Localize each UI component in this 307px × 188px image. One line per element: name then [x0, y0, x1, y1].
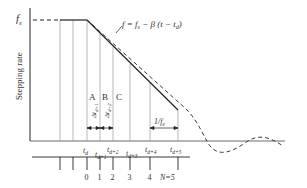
ideal-ramp-curve [87, 20, 283, 152]
svg-text:0: 0 [85, 173, 89, 182]
ramp-diagram: fs Stepping rate f = fs − β (t − td) A B… [0, 0, 307, 188]
period-label: 1/fe [154, 117, 165, 127]
region-b-label: B [102, 92, 108, 102]
svg-text:N=5: N=5 [159, 173, 175, 182]
fs-label: fs [16, 12, 22, 27]
delta-t-2-label: Δtd+2 [103, 103, 112, 119]
svg-text:td+4: td+4 [145, 145, 157, 155]
equation-label: f = fs − β (t − td) [122, 19, 182, 30]
svg-text:td+5: td+5 [170, 145, 182, 155]
svg-text:td+1: td+1 [95, 150, 107, 160]
step-labels: 0 1 2 3 4 N=5 [85, 173, 175, 182]
ramp-line [87, 20, 178, 110]
svg-text:3: 3 [128, 173, 132, 182]
delta-t-1-label: Δtd+1 [90, 104, 99, 119]
svg-text:td: td [83, 146, 88, 156]
svg-text:4: 4 [148, 173, 152, 182]
y-axis-label: Stepping rate [14, 52, 24, 100]
svg-text:td+2: td+2 [107, 145, 119, 155]
svg-text:2: 2 [111, 173, 115, 182]
region-a-label: A [89, 92, 96, 102]
svg-text:1: 1 [98, 173, 102, 182]
region-c-label: C [116, 92, 122, 102]
step-ticks [60, 157, 178, 170]
